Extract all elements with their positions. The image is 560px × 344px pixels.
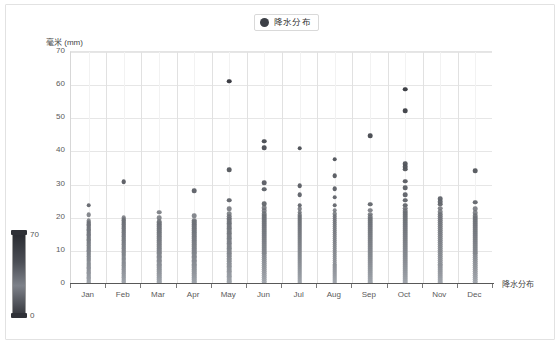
x-axis-tick [246, 284, 247, 288]
x-tick-label: Sep [349, 291, 389, 299]
legend-marker-icon [260, 18, 269, 27]
x-tick-label: Jun [243, 291, 283, 299]
scatter-point[interactable] [368, 133, 373, 138]
plot-inner [71, 52, 492, 283]
scatter-point[interactable] [332, 195, 337, 200]
x-axis-title: 降水分布 [502, 278, 534, 289]
x-axis-tick [492, 284, 493, 288]
x-axis-tick [316, 284, 317, 288]
scatter-point[interactable] [368, 202, 373, 207]
gridline-vertical [106, 52, 107, 283]
y-tick-label: 50 [43, 113, 65, 121]
scatter-point[interactable] [157, 210, 162, 215]
visual-map-handle-max[interactable] [11, 230, 27, 235]
scatter-point[interactable] [86, 203, 91, 208]
x-axis-tick [281, 284, 282, 288]
y-tick-label: 10 [43, 246, 65, 254]
x-axis-tick [351, 284, 352, 288]
scatter-point[interactable] [262, 180, 267, 185]
scatter-point[interactable] [192, 188, 197, 193]
x-axis-line [70, 283, 494, 284]
legend[interactable]: 降水分布 [254, 14, 319, 31]
gridline-vertical [247, 52, 248, 283]
scatter-point[interactable] [403, 179, 408, 184]
scatter-point[interactable] [297, 146, 302, 151]
x-axis-tick [140, 284, 141, 288]
gridline-vertical [423, 52, 424, 283]
visual-map-slider[interactable]: 70 0 [12, 228, 26, 320]
scatter-point[interactable] [297, 183, 302, 188]
x-axis-tick [70, 284, 71, 288]
x-axis-tick [211, 284, 212, 288]
scatter-point[interactable] [297, 193, 302, 198]
visual-map-min-label: 0 [30, 312, 34, 320]
y-tick-label: 0 [43, 279, 65, 287]
scatter-point[interactable] [403, 192, 408, 197]
scatter-point[interactable] [332, 203, 337, 208]
y-tick-label: 40 [43, 146, 65, 154]
y-tick-label: 30 [43, 180, 65, 188]
visual-map-gradient-bar[interactable] [12, 234, 26, 314]
y-tick-label: 60 [43, 80, 65, 88]
scatter-point[interactable] [262, 139, 267, 144]
gridline-vertical [212, 52, 213, 283]
scatter-point[interactable] [403, 186, 408, 191]
scatter-point[interactable] [403, 108, 408, 113]
x-axis-tick [105, 284, 106, 288]
x-tick-label: Apr [173, 291, 213, 299]
scatter-point[interactable] [86, 213, 91, 218]
x-axis-tick [457, 284, 458, 288]
x-tick-label: Mar [138, 291, 178, 299]
x-tick-label: Aug [314, 291, 354, 299]
scatter-point[interactable] [403, 167, 408, 172]
scatter-point[interactable] [473, 168, 478, 173]
scatter-point[interactable] [227, 167, 232, 172]
scatter-point[interactable] [227, 198, 232, 203]
scatter-point[interactable] [227, 79, 232, 84]
x-tick-label: Jul [279, 291, 319, 299]
legend-item-label: 降水分布 [274, 18, 311, 27]
scatter-point[interactable] [262, 187, 267, 192]
scatter-point[interactable] [332, 157, 337, 162]
gridline-vertical [352, 52, 353, 283]
scatter-point[interactable] [332, 174, 337, 179]
scatter-point[interactable] [332, 186, 337, 191]
chart-screenshot: 降水分布 毫米 (mm) 降水分布 010203040506070 JanFeb… [0, 0, 560, 344]
gridline-vertical [141, 52, 142, 283]
x-tick-label: Nov [419, 291, 459, 299]
x-tick-label: Dec [454, 291, 494, 299]
x-tick-label: Feb [103, 291, 143, 299]
y-tick-label: 70 [43, 47, 65, 55]
x-axis-tick [387, 284, 388, 288]
gridline-vertical [317, 52, 318, 283]
scatter-point[interactable] [262, 145, 267, 150]
x-tick-label: May [208, 291, 248, 299]
visual-map-max-label: 70 [30, 231, 39, 239]
gridline-vertical [388, 52, 389, 283]
y-tick-label: 20 [43, 213, 65, 221]
visual-map-handle-min[interactable] [11, 313, 27, 318]
plot-area [70, 51, 492, 283]
scatter-point[interactable] [473, 200, 478, 205]
x-tick-label: Jan [68, 291, 108, 299]
x-axis-tick [176, 284, 177, 288]
x-axis-tick [422, 284, 423, 288]
scatter-point[interactable] [403, 87, 408, 92]
gridline-vertical [458, 52, 459, 283]
scatter-point[interactable] [121, 179, 126, 184]
x-tick-label: Oct [384, 291, 424, 299]
gridline-vertical [282, 52, 283, 283]
gridline-vertical [177, 52, 178, 283]
